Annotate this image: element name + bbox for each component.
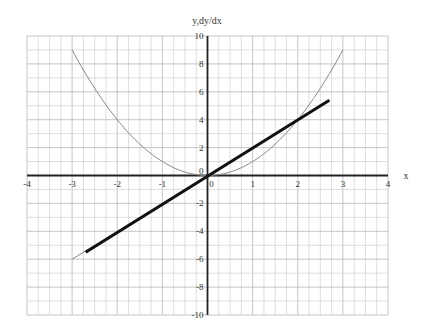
y-tick-label: -6 bbox=[196, 254, 204, 264]
y-tick-label: 4 bbox=[199, 115, 204, 125]
x-tick-label: -3 bbox=[68, 179, 76, 189]
y-tick-label: 8 bbox=[199, 59, 204, 69]
x-tick-label: 2 bbox=[296, 179, 301, 189]
x-axis-title: x bbox=[404, 170, 409, 181]
x-tick-label: 1 bbox=[250, 179, 255, 189]
y-tick-label: 6 bbox=[199, 87, 204, 97]
y-tick-label: -4 bbox=[196, 226, 204, 236]
x-tick-label: -2 bbox=[114, 179, 122, 189]
x-tick-label: 0 bbox=[209, 179, 214, 189]
y-tick-label: 10 bbox=[195, 31, 205, 41]
y-tick-label: -8 bbox=[196, 282, 204, 292]
origin-label: 0 bbox=[199, 166, 204, 176]
x-tick-label: 3 bbox=[341, 179, 346, 189]
x-tick-label: 4 bbox=[386, 179, 391, 189]
chart: -4-3-2-101234108642-2-4-6-8-100 y,dy/dx … bbox=[0, 0, 430, 332]
y-tick-label: 2 bbox=[199, 143, 204, 153]
y-axis-title: y,dy/dx bbox=[192, 15, 222, 26]
y-tick-label: -2 bbox=[196, 198, 204, 208]
x-tick-label: -1 bbox=[159, 179, 167, 189]
y-tick-label: -10 bbox=[192, 310, 204, 320]
x-tick-label: -4 bbox=[23, 179, 31, 189]
